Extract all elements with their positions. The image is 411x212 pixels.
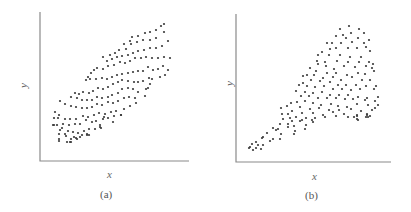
data-point: [56, 124, 58, 126]
data-point: [96, 67, 98, 69]
data-point: [151, 57, 153, 59]
data-point: [147, 87, 149, 89]
data-point: [377, 96, 379, 98]
data-point: [286, 105, 288, 107]
data-point: [78, 93, 80, 95]
data-point: [102, 68, 104, 70]
data-point: [86, 134, 88, 136]
data-point: [317, 97, 319, 99]
data-point: [305, 117, 307, 119]
data-point: [58, 138, 60, 140]
data-point: [101, 97, 103, 99]
data-point: [295, 90, 297, 92]
data-point: [308, 95, 310, 97]
data-point: [97, 87, 99, 89]
data-point: [99, 124, 101, 126]
data-point: [287, 126, 289, 128]
data-point: [335, 115, 337, 117]
data-point: [291, 120, 293, 122]
data-point: [333, 68, 335, 70]
data-point: [111, 94, 113, 96]
data-point: [127, 87, 129, 89]
data-point: [74, 92, 76, 94]
data-point: [96, 96, 98, 98]
data-point: [353, 116, 355, 118]
data-point: [300, 95, 302, 97]
data-point: [329, 94, 331, 96]
data-point: [129, 60, 131, 62]
data-point: [356, 103, 358, 105]
data-point: [326, 97, 328, 99]
data-point: [88, 92, 90, 94]
data-point: [322, 77, 324, 79]
data-point: [116, 74, 118, 76]
data-point: [66, 141, 68, 143]
data-point: [279, 138, 281, 140]
data-point: [75, 106, 77, 108]
data-point: [70, 105, 72, 107]
data-point: [347, 61, 349, 63]
data-point: [129, 105, 131, 107]
data-point: [332, 88, 334, 90]
data-point: [325, 65, 327, 67]
data-point: [142, 39, 144, 41]
data-point: [86, 99, 88, 101]
data-point: [369, 50, 371, 52]
panel-b-axes: [236, 14, 391, 162]
data-point: [324, 61, 326, 63]
data-point: [358, 61, 360, 63]
data-point: [371, 67, 373, 69]
data-point: [350, 89, 352, 91]
data-point: [373, 70, 375, 72]
data-point: [167, 40, 169, 42]
data-point: [345, 84, 347, 86]
data-point: [54, 111, 56, 113]
data-point: [133, 81, 135, 83]
data-point: [144, 95, 146, 97]
panel-a: y x (a): [17, 12, 189, 201]
data-point: [143, 49, 145, 51]
data-point: [135, 102, 137, 104]
data-point: [367, 104, 369, 106]
data-point: [82, 91, 84, 93]
data-point: [169, 57, 171, 59]
data-point: [287, 113, 289, 115]
data-point: [304, 91, 306, 93]
data-point: [344, 98, 346, 100]
data-point: [262, 144, 264, 146]
data-point: [312, 121, 314, 123]
data-point: [119, 61, 121, 63]
data-point: [107, 117, 109, 119]
data-point: [299, 106, 301, 108]
data-point: [350, 108, 352, 110]
data-point: [364, 73, 366, 75]
data-point: [320, 104, 322, 106]
data-point: [109, 54, 111, 56]
data-point: [155, 37, 157, 39]
data-point: [117, 92, 119, 94]
data-point: [91, 121, 93, 123]
data-point: [332, 111, 334, 113]
data-point: [167, 69, 169, 71]
data-point: [347, 116, 349, 118]
data-point: [118, 49, 120, 51]
data-point: [335, 72, 337, 74]
data-point: [58, 114, 60, 116]
data-point: [64, 103, 66, 105]
data-point: [312, 92, 314, 94]
data-point: [107, 101, 109, 103]
data-point: [368, 39, 370, 41]
data-point: [304, 128, 306, 130]
data-point: [113, 115, 115, 117]
data-point: [304, 100, 306, 102]
data-point: [90, 72, 92, 74]
data-point: [287, 123, 289, 125]
data-point: [163, 31, 165, 33]
data-point: [348, 25, 350, 27]
data-point: [149, 83, 151, 85]
data-point: [62, 123, 64, 125]
data-point: [269, 140, 271, 142]
data-point: [81, 99, 83, 101]
data-point: [302, 82, 304, 84]
data-point: [95, 120, 97, 122]
